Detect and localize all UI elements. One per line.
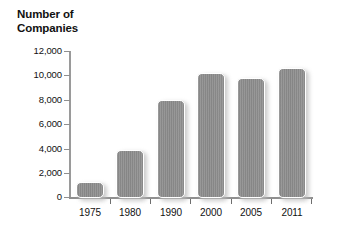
y-tick-label-10000: 10,000 — [16, 70, 62, 80]
y-tick-mark-6000 — [64, 124, 70, 125]
x-tick-label-1975: 1975 — [70, 207, 110, 218]
y-tick-label-12000: 12,000 — [16, 46, 62, 56]
x-tick-mark-1 — [110, 199, 111, 204]
bar-1975[interactable] — [76, 182, 104, 198]
y-tick-mark-2000 — [64, 173, 70, 174]
y-tick-mark-10000 — [64, 75, 70, 76]
x-tick-mark-6 — [311, 199, 312, 204]
x-tick-label-1990: 1990 — [151, 207, 191, 218]
x-tick-mark-5 — [271, 199, 272, 204]
y-tick-label-2000: 2,000 — [16, 168, 62, 178]
x-tick-label-2005: 2005 — [231, 207, 271, 218]
x-tick-mark-2 — [150, 199, 151, 204]
y-tick-mark-8000 — [64, 100, 70, 101]
x-tick-label-2000: 2000 — [191, 207, 231, 218]
y-tick-label-6000: 6,000 — [16, 119, 62, 129]
x-tick-label-2011: 2011 — [272, 207, 312, 218]
bar-1980[interactable] — [116, 150, 144, 198]
x-tick-mark-4 — [231, 199, 232, 204]
y-tick-label-0: 0 — [16, 192, 62, 202]
y-tick-mark-4000 — [64, 149, 70, 150]
y-tick-label-4000: 4,000 — [16, 144, 62, 154]
bar-chart: Number of Companies 12,000 10,000 8,000 … — [0, 0, 338, 232]
x-tick-label-1980: 1980 — [110, 207, 150, 218]
bar-2005[interactable] — [237, 78, 265, 198]
y-tick-mark-0 — [64, 197, 70, 198]
plot-area: 12,000 10,000 8,000 6,000 4,000 2,000 0 — [0, 0, 338, 232]
bar-2011[interactable] — [278, 68, 306, 198]
bar-2000[interactable] — [197, 73, 225, 198]
y-tick-mark-12000 — [64, 51, 70, 52]
bar-1990[interactable] — [157, 100, 185, 198]
y-tick-label-8000: 8,000 — [16, 95, 62, 105]
y-axis-line — [69, 51, 71, 199]
x-tick-mark-3 — [190, 199, 191, 204]
